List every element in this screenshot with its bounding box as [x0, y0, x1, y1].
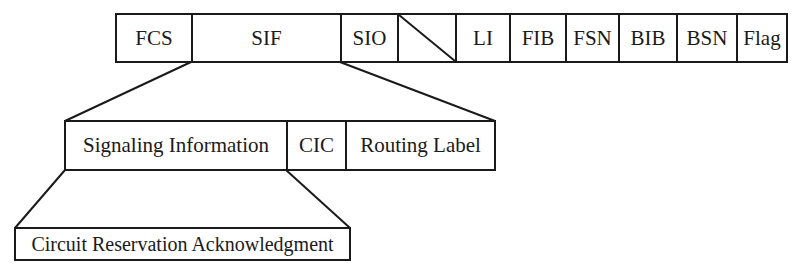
field-label: Routing Label: [360, 133, 481, 158]
field-label: CIC: [299, 133, 334, 158]
field-label: Circuit Reservation Acknowledgment: [31, 233, 333, 256]
field-label: Signaling Information: [83, 133, 269, 158]
field-cic: CIC: [288, 122, 347, 169]
field-label: LI: [473, 26, 493, 51]
diagonal-slash-icon: [399, 15, 455, 61]
field-fsn: FSN: [567, 15, 620, 61]
field-fcs: FCS: [117, 15, 193, 61]
frame-row: FCS SIF SIO LI FIB FSN BIB BSN Flag: [115, 13, 788, 63]
field-flag: Flag: [738, 15, 786, 61]
field-bib: BIB: [620, 15, 678, 61]
field-sio: SIO: [342, 15, 399, 61]
field-circuit-reservation-acknowledgment: Circuit Reservation Acknowledgment: [16, 229, 349, 259]
field-label: BIB: [630, 26, 665, 51]
field-label: FSN: [573, 26, 612, 51]
field-label: FIB: [522, 26, 555, 51]
field-label: SIO: [353, 26, 387, 51]
message-row: Circuit Reservation Acknowledgment: [14, 227, 351, 261]
field-fib: FIB: [511, 15, 567, 61]
field-bsn: BSN: [678, 15, 738, 61]
field-label: SIF: [251, 26, 281, 51]
field-label: BSN: [687, 26, 728, 51]
field-signaling-information: Signaling Information: [66, 122, 288, 169]
field-routing-label: Routing Label: [347, 122, 494, 169]
field-label: Flag: [743, 26, 780, 51]
field-sif: SIF: [193, 15, 342, 61]
field-li: LI: [457, 15, 511, 61]
field-label: FCS: [135, 26, 172, 51]
sif-row: Signaling Information CIC Routing Label: [64, 120, 496, 171]
field-spare: [399, 15, 457, 61]
